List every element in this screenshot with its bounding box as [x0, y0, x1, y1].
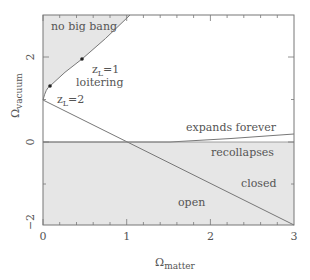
- y-tick-2: 2: [24, 54, 37, 61]
- label-loitering: loitering: [76, 76, 124, 89]
- y-axis-label: Ωvacuum: [9, 73, 24, 118]
- y-tick-0: 0: [24, 139, 37, 146]
- x-tick-2: 2: [207, 230, 214, 243]
- cosmology-plot: 0 1 2 3 2 0 −2 Ωmatter Ωvacuum no big ba…: [0, 0, 310, 280]
- label-recollapses: recollapses: [211, 146, 274, 159]
- x-tick-0: 0: [40, 230, 47, 243]
- label-open: open: [178, 196, 205, 209]
- x-tick-1: 1: [123, 230, 130, 243]
- label-no-big-bang: no big bang: [51, 20, 117, 33]
- label-closed: closed: [241, 177, 277, 190]
- x-axis-label: Ωmatter: [155, 256, 196, 271]
- expands-forever-boundary: [43, 134, 294, 142]
- x-tick-3: 3: [291, 230, 298, 243]
- zl1-point: [80, 57, 84, 61]
- label-zl2: zL=2: [57, 93, 84, 108]
- y-tick-minus2: −2: [24, 214, 37, 230]
- label-expands-forever: expands forever: [186, 121, 277, 134]
- zl2-point: [48, 84, 52, 88]
